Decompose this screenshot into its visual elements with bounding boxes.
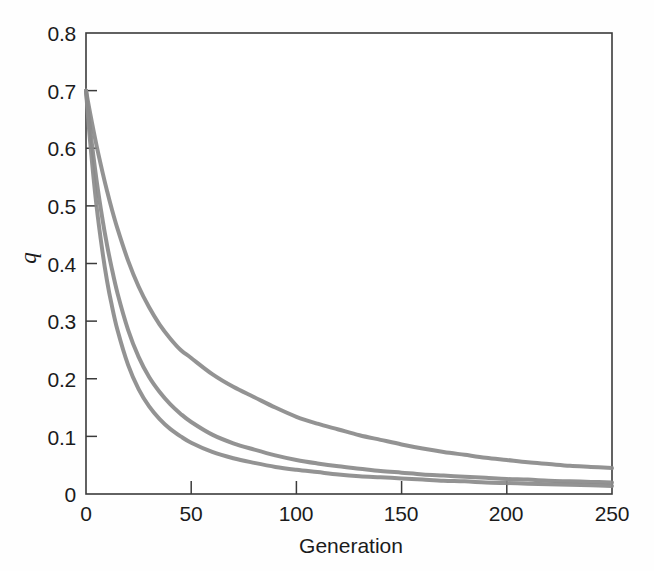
xtick-label-100: 100 xyxy=(261,503,331,524)
figure-canvas: 0.8 0.7 0.6 0.5 0.4 0.3 0.2 0.1 0 0 50 1… xyxy=(0,0,654,571)
xtick-label-150: 150 xyxy=(366,503,436,524)
ytick-label-0_5: 0.5 xyxy=(12,196,76,217)
ytick-label-0_6: 0.6 xyxy=(12,138,76,159)
y-axis-title: q xyxy=(16,238,42,278)
x-axis-title: Generation xyxy=(186,534,516,558)
xtick-label-250: 250 xyxy=(577,503,647,524)
ytick-label-0_2: 0.2 xyxy=(12,369,76,390)
ytick-label-0: 0 xyxy=(12,484,76,505)
plot-area xyxy=(0,0,654,571)
ytick-label-0_1: 0.1 xyxy=(12,427,76,448)
xtick-label-200: 200 xyxy=(471,503,541,524)
ytick-label-0_8: 0.8 xyxy=(12,23,76,44)
xtick-label-0: 0 xyxy=(51,503,121,524)
ytick-label-0_7: 0.7 xyxy=(12,81,76,102)
ytick-label-0_3: 0.3 xyxy=(12,311,76,332)
xtick-label-50: 50 xyxy=(156,503,226,524)
